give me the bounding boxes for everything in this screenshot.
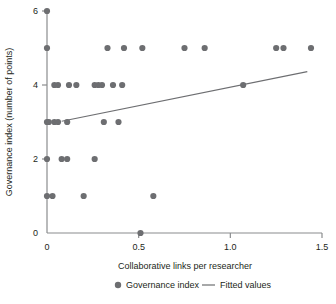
x-tick-label: 0.5	[132, 242, 145, 252]
legend-label-governance-index: Governance index	[126, 280, 200, 290]
data-point	[99, 82, 105, 88]
data-point	[119, 82, 125, 88]
data-points-group	[44, 8, 314, 236]
data-point	[59, 156, 65, 162]
data-point	[64, 156, 70, 162]
data-point	[150, 193, 156, 199]
data-point	[308, 45, 314, 51]
data-point	[115, 119, 121, 125]
y-tick-label: 0	[33, 228, 38, 238]
data-point	[139, 45, 145, 51]
fitted-line-segment	[62, 72, 308, 122]
plot-canvas: 0246 00.51.01.5 Governance index (number…	[0, 0, 336, 304]
data-point	[137, 230, 143, 236]
x-axis-title: Collaborative links per researcher	[118, 261, 252, 271]
x-tick-label: 1.0	[224, 242, 237, 252]
data-point	[92, 156, 98, 162]
data-point	[101, 119, 107, 125]
fitted-values-line	[62, 72, 308, 122]
data-point	[64, 119, 70, 125]
y-tick-label: 2	[33, 154, 38, 164]
data-point	[181, 45, 187, 51]
y-tick-label: 4	[33, 80, 38, 90]
data-point	[55, 119, 61, 125]
data-point	[104, 45, 110, 51]
data-point	[202, 45, 208, 51]
data-point	[49, 193, 55, 199]
scatter-chart: 0246 00.51.01.5 Governance index (number…	[0, 0, 336, 304]
data-point	[44, 45, 50, 51]
data-point	[280, 45, 286, 51]
data-point	[121, 45, 127, 51]
y-axis-title: Governance index (number of points)	[4, 48, 14, 197]
data-point	[55, 82, 61, 88]
data-point	[240, 82, 246, 88]
axes-group	[47, 11, 322, 233]
data-point	[46, 119, 52, 125]
data-point	[81, 193, 87, 199]
data-point	[44, 156, 50, 162]
data-point	[44, 8, 50, 14]
y-tick-label: 6	[33, 6, 38, 16]
x-tick-label: 0	[44, 242, 49, 252]
x-tick-label: 1.5	[316, 242, 329, 252]
legend: Governance index Fitted values	[115, 280, 272, 290]
data-point	[273, 45, 279, 51]
x-axis-ticks: 00.51.01.5	[44, 233, 328, 252]
legend-marker-dot-icon	[115, 282, 121, 288]
legend-label-fitted-values: Fitted values	[220, 280, 272, 290]
data-point	[66, 82, 72, 88]
data-point	[73, 82, 79, 88]
data-point	[44, 193, 50, 199]
data-point	[110, 82, 116, 88]
